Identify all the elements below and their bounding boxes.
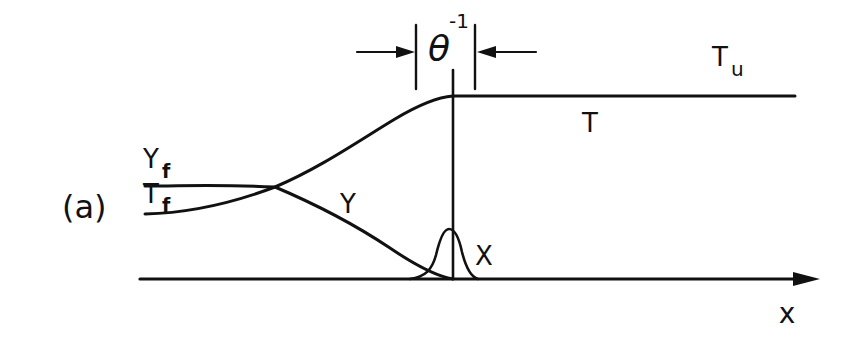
theta-exponent: -1 — [449, 9, 469, 33]
panel-label: (a) — [62, 188, 107, 226]
arrow-right-icon — [396, 46, 415, 58]
t-f-subscript: f — [162, 194, 171, 216]
reaction-rate-curve — [410, 229, 478, 279]
y-label: Y — [339, 189, 356, 219]
y-f-subscript: f — [162, 160, 171, 182]
temperature-curve — [145, 96, 795, 214]
y-f-label: Y — [142, 144, 159, 174]
x-label: X — [475, 241, 493, 271]
x-axis-arrowhead-icon — [793, 272, 820, 286]
x-axis — [140, 272, 820, 286]
t-u-subscript: u — [731, 57, 744, 81]
theta-label: θ — [428, 28, 450, 69]
x-axis-label: x — [779, 297, 796, 330]
arrow-left-icon — [477, 46, 496, 58]
t-label: T — [581, 108, 598, 138]
t-f-label: T — [142, 179, 159, 209]
fuel-fraction-curve — [145, 185, 453, 279]
flame-structure-diagram: x θ -1 T u T Y f T f (a) Y X — [0, 0, 861, 338]
t-u-label: T — [711, 42, 728, 72]
